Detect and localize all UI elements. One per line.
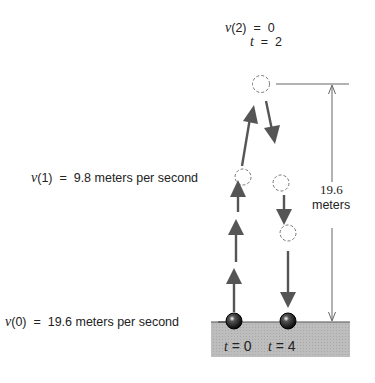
apex-velocity-label: ν(2) = 0 [225, 21, 275, 35]
mid-down-circle-lower [280, 225, 296, 241]
ball-end [280, 313, 296, 329]
upward-velocity-arrows [226, 105, 258, 312]
mid-down-circle-upper [273, 175, 289, 191]
apex-circle [253, 76, 270, 93]
ball-start [226, 313, 242, 329]
end-time-label: t = 4 [268, 339, 296, 354]
downward-velocity-arrows [264, 101, 296, 308]
apex-time-label: t = 2 [250, 35, 282, 49]
mid-velocity-label: ν(1) = 9.8 meters per second [31, 171, 198, 185]
start-time-label: t = 0 [224, 339, 252, 354]
height-value-label: 19.6 [320, 183, 343, 197]
initial-velocity-label: ν(0) = 19.6 meters per second [5, 315, 179, 329]
height-unit-label: meters [312, 198, 350, 212]
